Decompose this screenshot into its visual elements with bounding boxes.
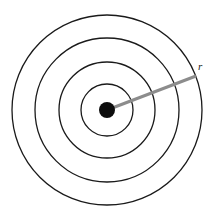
- center-dot: [99, 102, 115, 118]
- concentric-circles-svg: r: [0, 0, 214, 216]
- radius-label: r: [198, 60, 203, 72]
- diagram-canvas: r: [0, 0, 214, 216]
